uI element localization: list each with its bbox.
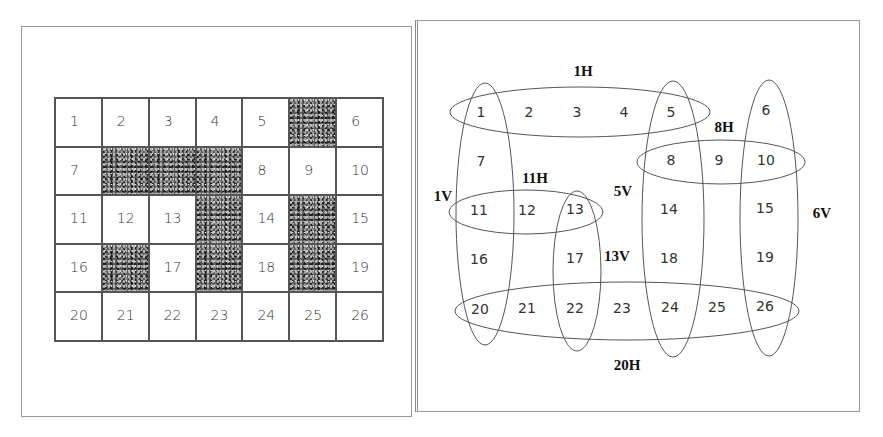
variable-number: 3 bbox=[573, 104, 582, 120]
variable-number: 16 bbox=[470, 251, 488, 267]
variable-number: 21 bbox=[518, 300, 536, 316]
variable-number: 2 bbox=[525, 104, 534, 120]
slot-ellipses bbox=[0, 0, 883, 437]
variable-number: 11 bbox=[470, 202, 488, 218]
slot-label-13v: 13V bbox=[604, 248, 630, 265]
slot-label-11h: 11H bbox=[522, 170, 548, 187]
slot-label-1h: 1H bbox=[573, 63, 592, 80]
variable-number: 5 bbox=[667, 104, 676, 120]
variable-number: 23 bbox=[613, 300, 631, 316]
variable-number: 20 bbox=[471, 301, 489, 317]
variable-number: 9 bbox=[715, 152, 724, 168]
variable-number: 14 bbox=[660, 201, 678, 217]
variable-number: 24 bbox=[661, 299, 679, 315]
variable-number: 26 bbox=[756, 298, 774, 314]
slot-label-20h: 20H bbox=[614, 357, 641, 374]
slot-ellipse-5v bbox=[642, 81, 704, 357]
slot-label-8h: 8H bbox=[714, 119, 733, 136]
slot-label-6v: 6V bbox=[813, 205, 831, 222]
slot-label-1v: 1V bbox=[434, 188, 452, 205]
variable-number: 22 bbox=[566, 300, 584, 316]
variable-number: 19 bbox=[756, 249, 774, 265]
variable-number: 13 bbox=[566, 201, 584, 217]
variable-number: 10 bbox=[757, 152, 775, 168]
variable-number: 25 bbox=[708, 299, 726, 315]
variable-number: 8 bbox=[667, 152, 676, 168]
slot-label-5v: 5V bbox=[614, 183, 632, 200]
variable-number: 6 bbox=[762, 102, 771, 118]
variable-number: 7 bbox=[477, 153, 486, 169]
variable-number: 15 bbox=[756, 200, 774, 216]
variable-number: 18 bbox=[660, 250, 678, 266]
variable-number: 12 bbox=[518, 202, 536, 218]
variable-number: 1 bbox=[477, 104, 486, 120]
variable-number: 17 bbox=[566, 250, 584, 266]
slot-ellipse-6v bbox=[740, 80, 798, 356]
variable-number: 4 bbox=[620, 104, 629, 120]
